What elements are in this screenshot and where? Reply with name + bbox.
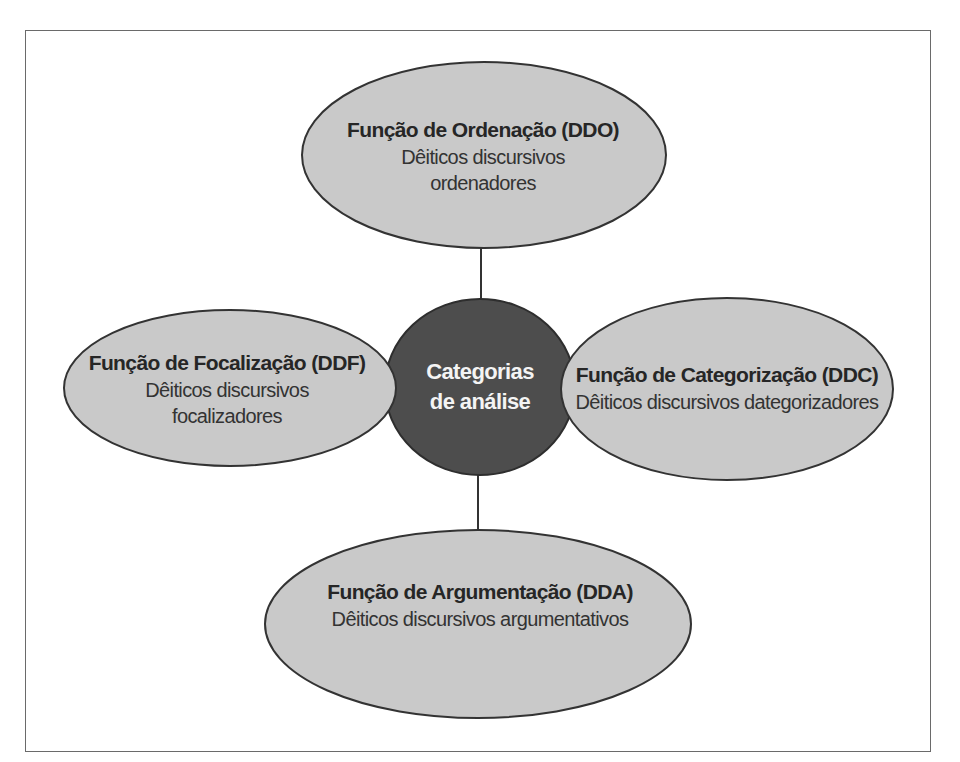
right-node-title: Função de Categorização (DDC) bbox=[576, 361, 879, 389]
bottom-node-subtitle-1: Dêiticos discursivos argumentativos bbox=[327, 606, 633, 632]
bottom-node-label: Função de Argumentação (DDA) Dêiticos di… bbox=[327, 578, 633, 632]
left-node-subtitle-1: Dêiticos discursivos bbox=[89, 376, 366, 402]
top-node-title: Função de Ordenação (DDO) bbox=[347, 116, 619, 144]
right-node-subtitle-1: Dêiticos discursivos dategorizadores bbox=[576, 389, 879, 415]
center-line-2: de análise bbox=[426, 387, 534, 417]
left-node-label: Função de Focalização (DDF) Dêiticos dis… bbox=[89, 349, 366, 430]
center-line-1: Categorias bbox=[426, 357, 534, 387]
bottom-node-title: Função de Argumentação (DDA) bbox=[327, 578, 633, 606]
left-node-subtitle-2: focalizadores bbox=[89, 403, 366, 429]
left-node-title: Função de Focalização (DDF) bbox=[89, 349, 366, 377]
center-node-label: Categorias de análise bbox=[426, 357, 534, 416]
top-node-subtitle-1: Dêiticos discursivos bbox=[347, 143, 619, 169]
top-node-subtitle-2: ordenadores bbox=[347, 170, 619, 196]
right-node-label: Função de Categorização (DDC) Dêiticos d… bbox=[576, 361, 879, 415]
top-node-label: Função de Ordenação (DDO) Dêiticos discu… bbox=[347, 116, 619, 197]
